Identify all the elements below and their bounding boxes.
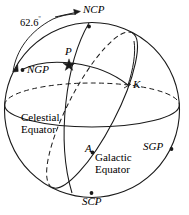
label-celestial-equator: Celestial Equator bbox=[21, 112, 79, 135]
label-k: K bbox=[133, 79, 140, 90]
label-sgp: SGP bbox=[143, 141, 163, 152]
label-a: A bbox=[85, 143, 92, 154]
ncp-arrow-head bbox=[74, 9, 81, 14]
label-galactic-equator: Galactic Equator bbox=[95, 152, 153, 175]
angle-label-62-6: 62.6º bbox=[20, 16, 41, 28]
celestial-sphere-figure: 62.6º NCP NGP P K SGP SCP A Celestial Eq… bbox=[0, 0, 189, 215]
point-marker-ncp bbox=[87, 25, 91, 29]
degree-symbol: º bbox=[38, 15, 40, 23]
point-marker-sgp bbox=[170, 147, 174, 151]
label-p: P bbox=[65, 46, 72, 57]
galactic-equator-line-1: Galactic bbox=[95, 152, 153, 164]
point-marker-ngp bbox=[21, 68, 25, 72]
celestial-equator-line-2: Equator bbox=[21, 124, 79, 136]
angle-value: 62.6 bbox=[20, 17, 38, 28]
label-ncp: NCP bbox=[83, 4, 104, 15]
label-scp: SCP bbox=[82, 196, 102, 207]
galactic-equator-line-2: Equator bbox=[95, 164, 153, 176]
label-ngp: NGP bbox=[27, 64, 49, 75]
celestial-equator-back-arc bbox=[5, 83, 180, 105]
sphere-drawing bbox=[0, 0, 189, 215]
sphere-outline-circle bbox=[5, 23, 180, 198]
celestial-equator-line-1: Celestial bbox=[21, 112, 79, 124]
